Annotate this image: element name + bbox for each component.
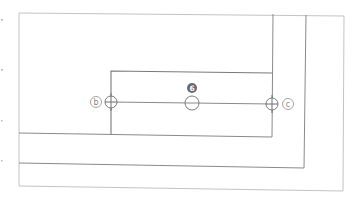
vertical-line-inner [272, 14, 273, 137]
numbered-marker: 6 [187, 83, 197, 93]
crosshair-marker-right [266, 95, 278, 113]
horizontal-line-lower-band [19, 163, 304, 168]
vertical-line-middle [304, 15, 306, 168]
crosshair-marker-left [105, 93, 117, 111]
numbered-marker-text: 6 [189, 84, 194, 93]
diagram-canvas: b c 6 [0, 0, 362, 206]
grid-label-b: b [91, 97, 102, 108]
horizontal-line-upper-band [19, 133, 272, 137]
crosshair-marker-center [185, 96, 199, 110]
grid-label-c: c [283, 99, 294, 110]
grid-label-b-text: b [93, 98, 98, 107]
grid-label-c-text: c [286, 100, 290, 109]
edge-ticks [1, 19, 3, 162]
